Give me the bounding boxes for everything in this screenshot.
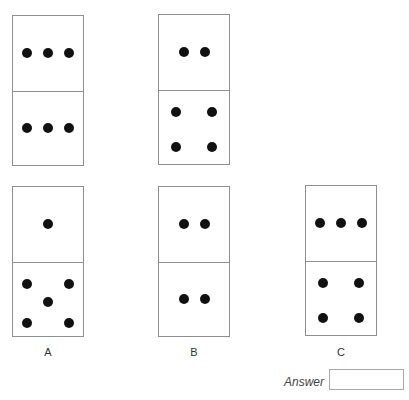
pip-dot: [64, 279, 74, 289]
sequence-domino-2: [158, 14, 230, 165]
domino-top-half: [159, 187, 229, 263]
pip-dot: [64, 48, 74, 58]
pip-dot: [43, 219, 53, 229]
pip-dot: [43, 297, 53, 307]
pip-dot: [22, 123, 32, 133]
pip-dot: [336, 218, 346, 228]
pip-dot: [318, 278, 328, 288]
domino-top-half: [13, 187, 83, 263]
domino-top-half: [306, 186, 376, 262]
option-domino-a[interactable]: [12, 186, 84, 337]
pip-dot: [43, 123, 53, 133]
answer-input[interactable]: [329, 369, 404, 390]
pip-dot: [64, 318, 74, 328]
pip-dot: [200, 294, 210, 304]
pip-dot: [318, 313, 328, 323]
pip-dot: [22, 48, 32, 58]
pip-dot: [64, 123, 74, 133]
pip-dot: [354, 278, 364, 288]
pip-dot: [315, 218, 325, 228]
domino-top-half: [159, 15, 229, 91]
pip-dot: [179, 219, 189, 229]
pip-dot: [200, 219, 210, 229]
pip-dot: [22, 279, 32, 289]
option-domino-c[interactable]: [305, 185, 377, 336]
domino-bottom-half: [13, 262, 83, 337]
pip-dot: [179, 47, 189, 57]
domino-bottom-half: [306, 261, 376, 336]
pip-dot: [207, 142, 217, 152]
pip-dot: [171, 107, 181, 117]
domino-bottom-half: [159, 90, 229, 165]
option-label-c: C: [331, 346, 351, 358]
domino-bottom-half: [13, 91, 83, 166]
pip-dot: [200, 47, 210, 57]
domino-bottom-half: [159, 262, 229, 337]
pip-dot: [357, 218, 367, 228]
domino-top-half: [13, 16, 83, 92]
sequence-domino-1: [12, 15, 84, 166]
option-label-b: B: [184, 346, 204, 358]
pip-dot: [179, 294, 189, 304]
option-domino-b[interactable]: [158, 186, 230, 337]
pip-dot: [207, 107, 217, 117]
answer-label: Answer: [284, 375, 324, 389]
pip-dot: [354, 313, 364, 323]
pip-dot: [171, 142, 181, 152]
option-label-a: A: [38, 346, 58, 358]
pip-dot: [22, 318, 32, 328]
pip-dot: [43, 48, 53, 58]
